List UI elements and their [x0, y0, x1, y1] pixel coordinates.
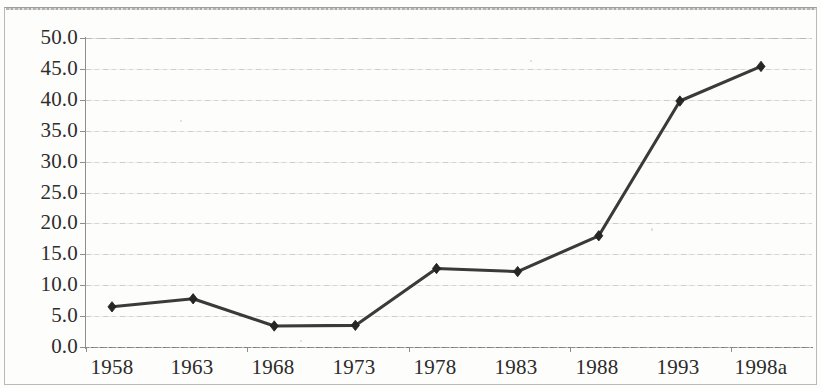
data-point-1968 [270, 321, 278, 331]
series-line [112, 66, 761, 326]
series-markers [108, 61, 765, 331]
data-point-1958 [108, 302, 116, 312]
series-layer [0, 0, 821, 388]
data-point-1983 [514, 266, 522, 276]
data-point-1963 [189, 294, 197, 304]
figure-root: 50.0 45.0 40.0 35.0 30.0 25.0 20.0 15.0 … [0, 0, 821, 388]
line-chart: 50.0 45.0 40.0 35.0 30.0 25.0 20.0 15.0 … [0, 0, 821, 388]
data-point-1998a [757, 61, 765, 71]
